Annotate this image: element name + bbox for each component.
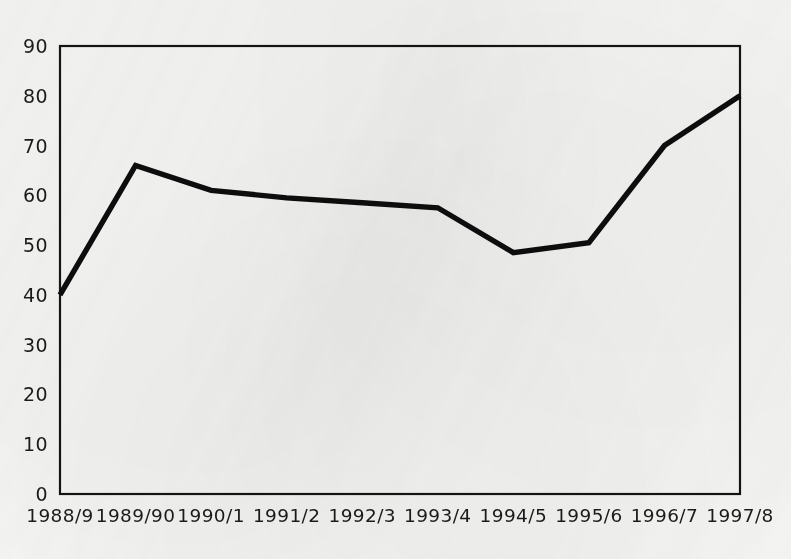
x-axis-tick-labels: 1988/91989/901990/11991/21992/31993/4199… [26,505,773,526]
x-tick-label: 1991/2 [253,505,320,526]
x-tick-label: 1989/90 [96,505,176,526]
y-tick-label: 70 [23,135,48,157]
x-tick-label: 1993/4 [404,505,471,526]
x-tick-label: 1994/5 [480,505,547,526]
y-tick-label: 60 [23,184,48,206]
x-tick-label: 1992/3 [328,505,395,526]
y-tick-label: 0 [36,483,49,505]
plot-frame [60,46,740,494]
y-tick-label: 40 [23,284,48,306]
x-tick-label: 1996/7 [631,505,698,526]
data-series-line [60,96,740,295]
x-tick-label: 1990/1 [177,505,244,526]
line-chart: 0102030405060708090 1988/91989/901990/11… [0,0,791,559]
y-axis-tick-labels: 0102030405060708090 [23,35,48,505]
y-tick-label: 20 [23,383,48,405]
x-tick-label: 1988/9 [26,505,93,526]
x-tick-label: 1997/8 [706,505,773,526]
y-tick-label: 30 [23,334,48,356]
y-tick-label: 10 [23,433,48,455]
y-tick-label: 50 [23,234,48,256]
x-tick-label: 1995/6 [555,505,622,526]
y-tick-label: 90 [23,35,48,57]
y-tick-label: 80 [23,85,48,107]
chart-canvas: 0102030405060708090 1988/91989/901990/11… [0,0,791,559]
